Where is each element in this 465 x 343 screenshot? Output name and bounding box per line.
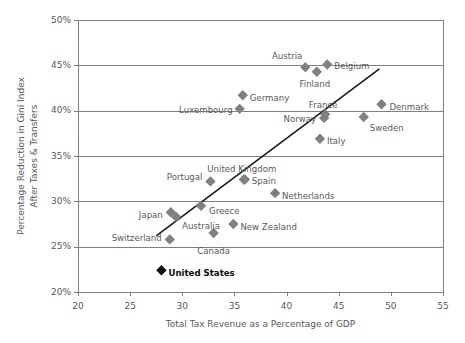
data-marker-greece <box>196 201 206 211</box>
data-marker-italy <box>315 134 325 144</box>
y-tick-label-25: 25% <box>51 241 71 251</box>
data-marker-denmark <box>376 99 386 109</box>
data-marker-sweden <box>359 112 369 122</box>
point-label-finland: Finland <box>299 79 330 89</box>
point-label-united-states: United States <box>168 268 234 278</box>
y-axis-title-line-1: Percentage Reduction in Gini Index <box>16 76 26 234</box>
x-tick-label-30: 30 <box>177 301 189 311</box>
scatter-chart: AustriaBelgiumFinlandGermanyLuxembourgDe… <box>0 0 465 343</box>
point-label-greece: Greece <box>209 206 240 216</box>
y-tick-label-35: 35% <box>51 151 71 161</box>
x-axis-title: Total Tax Revenue as a Percentage of GDP <box>165 319 356 329</box>
data-marker-belgium <box>322 59 332 69</box>
point-label-luxembourg: Luxembourg <box>179 105 233 115</box>
data-marker-new-zealand <box>228 219 238 229</box>
point-label-japan: Japan <box>138 210 163 220</box>
y-axis-tick-labels: 20%25%30%35%40%45%50% <box>51 15 71 297</box>
x-tick-label-40: 40 <box>281 301 293 311</box>
point-label-norway: Norway <box>284 114 317 124</box>
y-tick-label-50: 50% <box>51 15 71 25</box>
chart-canvas: AustriaBelgiumFinlandGermanyLuxembourgDe… <box>0 0 465 343</box>
data-marker-switzerland <box>165 234 175 244</box>
x-tick-label-25: 25 <box>124 301 135 311</box>
point-label-canada: Canada <box>197 246 230 256</box>
data-marker-spain <box>240 174 250 184</box>
point-label-spain: Spain <box>252 176 276 186</box>
point-label-united-kingdom: United Kingdom <box>207 164 276 174</box>
data-marker-united-states <box>156 265 166 275</box>
point-label-sweden: Sweden <box>370 123 404 133</box>
y-tick-label-45: 45% <box>51 60 71 70</box>
y-tick-label-20: 20% <box>51 287 71 297</box>
data-marker-netherlands <box>270 188 280 198</box>
grid-lines <box>78 21 443 293</box>
point-label-denmark: Denmark <box>389 102 429 112</box>
point-label-italy: Italy <box>327 136 346 146</box>
x-tick-label-50: 50 <box>385 301 397 311</box>
point-label-netherlands: Netherlands <box>282 191 335 201</box>
point-label-australia: Australia <box>182 221 220 231</box>
x-axis-tick-labels: 2025303540455055 <box>72 301 448 311</box>
x-tick-label-35: 35 <box>229 301 240 311</box>
x-tick-label-55: 55 <box>437 301 448 311</box>
point-label-belgium: Belgium <box>334 61 369 71</box>
y-tick-label-30: 30% <box>51 196 71 206</box>
point-label-portugal: Portugal <box>167 172 203 182</box>
data-marker-finland <box>312 66 322 76</box>
point-label-switzerland: Switzerland <box>112 233 162 243</box>
point-label-new-zealand: New Zealand <box>240 222 296 232</box>
x-tick-label-20: 20 <box>72 301 84 311</box>
data-point-labels: AustriaBelgiumFinlandGermanyLuxembourgDe… <box>112 51 429 278</box>
point-label-germany: Germany <box>250 93 290 103</box>
point-label-austria: Austria <box>272 51 302 61</box>
x-tick-label-45: 45 <box>333 301 344 311</box>
y-tick-label-40: 40% <box>51 105 71 115</box>
data-marker-austria <box>300 62 310 72</box>
y-axis-title-line-2: After Taxes & Transfers <box>29 104 39 207</box>
data-marker-portugal <box>205 176 215 186</box>
data-marker-luxembourg <box>234 104 244 114</box>
point-label-france: France <box>309 100 338 110</box>
data-marker-germany <box>238 90 248 100</box>
